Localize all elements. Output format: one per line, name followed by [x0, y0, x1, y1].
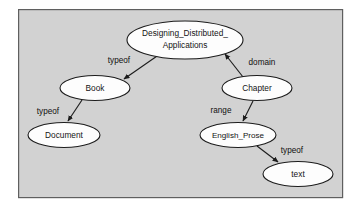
node-label-chapter: Chapter — [242, 83, 272, 93]
graph-canvas: typeof typeof domain range typeof — [0, 0, 360, 212]
node-label-line2: Applications — [163, 40, 208, 50]
edge-label-domain: domain — [249, 58, 276, 67]
node-book[interactable]: Book — [60, 76, 130, 101]
edge-label-typeof-book-document: typeof — [37, 107, 60, 116]
node-label-document: Document — [45, 130, 84, 140]
diagram-figure: typeof typeof domain range typeof — [0, 0, 360, 212]
edge-label-typeof-english-prose-text: typeof — [281, 146, 304, 155]
edge-label-typeof-root-book: typeof — [108, 56, 131, 65]
node-label-book: Book — [86, 83, 106, 93]
node-label-text: text — [291, 169, 305, 179]
node-document[interactable]: Document — [28, 123, 100, 148]
node-text[interactable]: text — [263, 162, 333, 187]
node-label-english-prose: English_Prose — [212, 131, 265, 140]
node-english-prose[interactable]: English_Prose — [200, 123, 276, 148]
node-label-line1: Designing_Distributed_ — [142, 28, 228, 38]
node-chapter[interactable]: Chapter — [222, 76, 292, 101]
node-designing-distributed-applications[interactable]: Designing_Distributed_ Applications — [127, 21, 243, 59]
edge-label-range: range — [211, 106, 232, 115]
